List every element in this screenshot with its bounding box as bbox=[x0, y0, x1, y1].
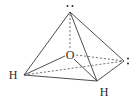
bond-o-h-front bbox=[74, 59, 97, 81]
edge-left-front bbox=[24, 75, 97, 81]
hydrogen-front-label: H bbox=[100, 85, 109, 99]
lone-pair-right-icon bbox=[127, 58, 129, 65]
tetrahedron-diagram: O H H bbox=[0, 0, 138, 105]
lone-pair-top-icon bbox=[67, 5, 74, 7]
edge-apex-left bbox=[24, 12, 70, 75]
central-atom-label: O bbox=[66, 48, 75, 62]
edge-apex-right bbox=[70, 12, 124, 61]
edge-apex-front bbox=[70, 12, 97, 81]
hydrogen-left-label: H bbox=[9, 68, 18, 82]
dashed-o-right bbox=[76, 55, 124, 61]
